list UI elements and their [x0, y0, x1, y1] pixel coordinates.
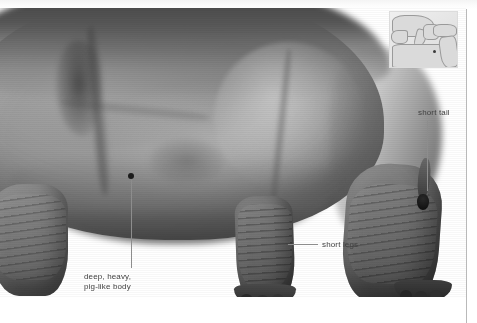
locator-map-inset [389, 11, 458, 68]
hippo-tail-tuft [417, 194, 429, 210]
right-gutter [467, 9, 477, 323]
annotation-point-marker-body [128, 173, 134, 179]
annotation-label-body-line1: deep, heavy, [84, 272, 131, 282]
right-divider-rule [466, 9, 467, 323]
map-location-marker-icon [433, 50, 436, 53]
annotation-label-short-tail: short tail [418, 108, 450, 118]
annotation-label-body-line2: pig-like body [84, 282, 131, 292]
front-leg-wrinkles [0, 194, 66, 280]
map-landmass-iberia [391, 30, 408, 44]
annotation-label-short-legs: short legs [322, 240, 358, 250]
white-floor-mask [0, 297, 466, 323]
leader-line-short-legs [288, 244, 318, 245]
annotation-label-body: deep, heavy, pig-like body [84, 272, 131, 292]
leader-line-body [131, 180, 132, 268]
leader-line-short-tail [427, 121, 428, 191]
middle-leg-wrinkles [238, 204, 292, 288]
figure-canvas: short tail short legs deep, heavy, pig-l… [0, 0, 477, 323]
